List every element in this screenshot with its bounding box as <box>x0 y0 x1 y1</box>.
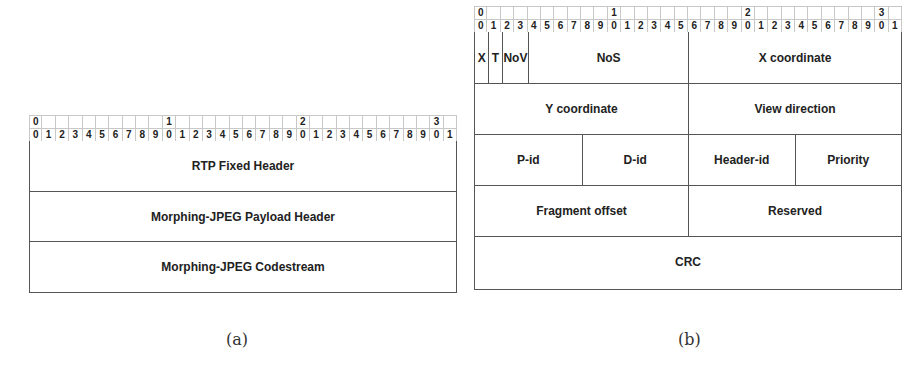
ruler-cell: 6 <box>688 19 701 33</box>
field-row: Y coordinateView direction <box>475 83 901 134</box>
ruler-cell: 0 <box>430 128 443 142</box>
ruler-cell: 1 <box>608 6 621 19</box>
field-y-coordinate: Y coordinate <box>475 84 688 134</box>
ruler-cell <box>230 115 243 128</box>
ruler-cell: 1 <box>487 19 500 33</box>
ruler-cell: 7 <box>390 128 403 142</box>
ruler-cell <box>190 115 203 128</box>
ruler-cell <box>216 115 229 128</box>
ruler-cell: 2 <box>635 19 648 33</box>
ruler-cell: 1 <box>310 128 323 142</box>
ruler-cell <box>795 6 808 19</box>
ruler-cell <box>283 115 296 128</box>
ruler-cell: 0 <box>474 19 487 33</box>
ruler-cell: 9 <box>728 19 741 33</box>
ruler-cell: 7 <box>701 19 714 33</box>
ruler-cell: 7 <box>835 19 848 33</box>
ruler-cell <box>136 115 149 128</box>
ruler-cell: 1 <box>755 19 768 33</box>
ruler-cell: 9 <box>417 128 430 142</box>
ruler-cell <box>83 115 96 128</box>
caption-b: (b) <box>678 330 701 349</box>
field-reserved: Reserved <box>688 186 901 236</box>
ruler-cell: 1 <box>163 115 176 128</box>
ruler-cell: 2 <box>297 115 310 128</box>
ruler-cell <box>688 6 701 19</box>
field-row: Morphing-JPEG Codestream <box>30 241 456 291</box>
ruler-cell <box>675 6 688 19</box>
ruler-cell: 0 <box>297 128 310 142</box>
ruler-cell <box>109 115 122 128</box>
ruler-cell <box>270 115 283 128</box>
ruler-cell <box>404 115 417 128</box>
ruler-cell <box>243 115 256 128</box>
ruler-cell <box>176 115 189 128</box>
field-fragment-offset: Fragment offset <box>475 186 688 236</box>
field-x: X <box>475 32 488 83</box>
ruler-cell <box>635 6 648 19</box>
ruler-cell: 9 <box>149 128 162 142</box>
ruler-cell <box>835 6 848 19</box>
ruler-cell: 0 <box>608 19 621 33</box>
ruler-cell: 5 <box>541 19 554 33</box>
ruler-cell <box>377 115 390 128</box>
field-header-id: Header-id <box>688 135 795 185</box>
ruler-cell <box>42 115 55 128</box>
ruler-cell <box>701 6 714 19</box>
ruler-cell: 1 <box>42 128 55 142</box>
field-row: RTP Fixed Header <box>30 141 456 191</box>
ruler-cell: 7 <box>568 19 581 33</box>
ruler-cell: 9 <box>594 19 607 33</box>
ruler-cell: 7 <box>256 128 269 142</box>
ruler-cell: 8 <box>581 19 594 33</box>
ruler-cell: 4 <box>795 19 808 33</box>
ruler-cell: 3 <box>514 19 527 33</box>
ruler-cell <box>849 6 862 19</box>
ruler-cell: 3 <box>430 115 443 128</box>
ruler-cell <box>808 6 821 19</box>
ruler-cell: 3 <box>782 19 795 33</box>
ruler-cell: 4 <box>528 19 541 33</box>
ruler-cell: 8 <box>715 19 728 33</box>
field-d-id: D-id <box>582 135 689 185</box>
ruler-cell: 3 <box>875 6 888 19</box>
ruler-cell <box>782 6 795 19</box>
payload-header-body: XTNoVNoSX coordinateY coordinateView dir… <box>474 32 902 290</box>
ruler-cell <box>96 115 109 128</box>
ruler-cell <box>417 115 430 128</box>
ruler-cell: 0 <box>29 115 42 128</box>
ruler-cell <box>350 115 363 128</box>
ruler-cell: 4 <box>350 128 363 142</box>
ruler-cell <box>56 115 69 128</box>
bit-ruler-units: 01234567890123456789012345678901 <box>474 19 902 33</box>
ruler-cell: 4 <box>661 19 674 33</box>
field-row: Fragment offsetReserved <box>475 185 901 236</box>
ruler-cell: 2 <box>190 128 203 142</box>
field-nos: NoS <box>528 32 688 83</box>
ruler-cell: 0 <box>163 128 176 142</box>
ruler-cell: 8 <box>136 128 149 142</box>
diagram-a-packet-format: 0123 01234567890123456789012345678901 RT… <box>29 115 457 295</box>
ruler-cell: 8 <box>849 19 862 33</box>
packet-body: RTP Fixed HeaderMorphing-JPEG Payload He… <box>29 141 457 293</box>
ruler-cell: 6 <box>554 19 567 33</box>
ruler-cell: 5 <box>230 128 243 142</box>
ruler-cell <box>862 6 875 19</box>
ruler-cell: 2 <box>742 6 755 19</box>
ruler-cell: 5 <box>96 128 109 142</box>
ruler-cell: 2 <box>768 19 781 33</box>
ruler-cell <box>661 6 674 19</box>
field-row: CRC <box>475 236 901 287</box>
field-morphing-jpeg-payload-header: Morphing-JPEG Payload Header <box>30 192 456 241</box>
field-crc: CRC <box>475 237 901 287</box>
field-priority: Priority <box>795 135 902 185</box>
ruler-cell: 1 <box>889 19 902 33</box>
ruler-cell <box>149 115 162 128</box>
ruler-cell: 2 <box>323 128 336 142</box>
field-rtp-fixed-header: RTP Fixed Header <box>30 141 456 191</box>
ruler-cell: 6 <box>243 128 256 142</box>
ruler-cell <box>444 115 457 128</box>
field-t: T <box>488 32 501 83</box>
ruler-cell <box>822 6 835 19</box>
field-row: P-idD-idHeader-idPriority <box>475 134 901 185</box>
